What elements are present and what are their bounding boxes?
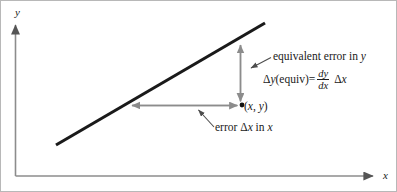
x-axis-label: x (383, 170, 388, 181)
fraction-numerator: dy (317, 68, 329, 79)
equivalent-error-annotation: equivalent error in y (273, 51, 366, 63)
formula-equiv-paren: (equiv) (276, 74, 309, 86)
point-coordinate-label: (x, y) (244, 101, 268, 113)
formula-rhs-variable: x (342, 74, 347, 86)
derivative-fraction: dydx (317, 68, 329, 91)
y-axis-label: y (15, 7, 20, 18)
diagram-canvas (1, 1, 397, 192)
formula-equals: = (309, 74, 316, 86)
error-x-prefix: error Δ (215, 121, 248, 133)
point-label-close: ) (264, 100, 268, 112)
equivalent-error-variable: y (361, 50, 366, 62)
error-x-annotation: error Δx in x (215, 122, 273, 134)
error-x-leader-line (199, 110, 215, 127)
fraction-denominator: dx (317, 80, 329, 91)
figure-container: y x (x, y) equivalent error in y Δy (equ… (0, 0, 397, 192)
formula-rhs-delta: Δ (334, 74, 341, 86)
error-x-variable-2: x (267, 121, 272, 133)
equivalent-error-formula: Δy (equiv) = dydxΔx (263, 68, 347, 91)
equivalent-error-leader-line (251, 58, 271, 69)
error-x-middle: in (253, 121, 268, 133)
equivalent-error-text: equivalent error in (273, 50, 361, 62)
